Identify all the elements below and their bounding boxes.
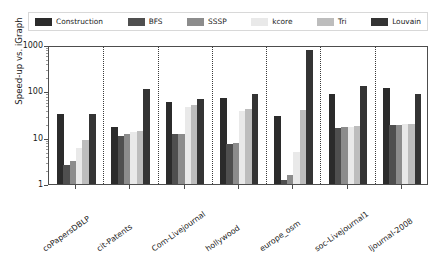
bar	[360, 86, 367, 184]
bar	[89, 114, 96, 184]
bar-groups	[49, 47, 427, 184]
legend-swatch-icon	[187, 18, 204, 26]
bar	[306, 50, 313, 185]
y-axis-tick-label: 1000	[23, 42, 43, 50]
legend-swatch-icon	[35, 18, 52, 26]
bar	[415, 94, 422, 184]
x-axis-tick-mark	[401, 185, 402, 189]
bar	[252, 94, 259, 184]
bar-group	[212, 47, 266, 184]
legend-swatch-icon	[317, 18, 334, 26]
x-axis-tick-mark	[129, 185, 130, 189]
y-axis-title: Speed-up vs. iGraph	[14, 0, 24, 126]
x-axis-tick-mark	[347, 185, 348, 189]
legend-swatch-icon	[128, 18, 145, 26]
bar-group	[266, 47, 320, 184]
legend-item-kcore: kcore	[251, 18, 292, 26]
bar-group	[49, 47, 103, 184]
legend-item-bfs: BFS	[128, 18, 163, 26]
x-axis-tick-label: coPapersDBLP	[41, 214, 92, 253]
x-axis-tick-label: soc-Livejournal1	[313, 209, 370, 253]
plot-area	[48, 46, 428, 185]
legend-item-louvain: Louvain	[371, 18, 421, 26]
x-axis-tick-label: cit-Patents	[95, 222, 134, 253]
bar-group	[103, 47, 157, 184]
x-axis-tick-mark	[184, 185, 185, 189]
y-axis-tick-label: 100	[28, 88, 43, 96]
legend-item-sssp: SSSP	[187, 18, 227, 26]
legend-label: BFS	[149, 18, 163, 26]
y-axis: 1101001000	[0, 40, 48, 192]
x-axis-tick-label: ljournal-2008	[367, 216, 414, 253]
x-axis-tick-label: europe_osm	[258, 219, 302, 254]
bar-group	[320, 47, 374, 184]
legend-label: Louvain	[392, 18, 421, 26]
legend-label: SSSP	[208, 18, 227, 26]
chart-figure: ConstructionBFSSSSPkcoreTriLouvain 11010…	[0, 0, 444, 263]
legend-item-tri: Tri	[317, 18, 347, 26]
x-axis-tick-mark	[238, 185, 239, 189]
legend-item-construction: Construction	[35, 18, 103, 26]
bar-group	[158, 47, 212, 184]
legend-swatch-icon	[251, 18, 268, 26]
x-axis-tick-mark	[292, 185, 293, 189]
bar-group	[375, 47, 428, 184]
legend-swatch-icon	[371, 18, 388, 26]
chart-legend: ConstructionBFSSSSPkcoreTriLouvain	[28, 12, 428, 31]
y-axis-tick-mark	[44, 185, 48, 186]
legend-label: Tri	[338, 18, 347, 26]
x-axis-tick-mark	[75, 185, 76, 189]
legend-label: Construction	[56, 18, 103, 26]
x-axis-tick-label: Com-Livejournal	[150, 210, 207, 254]
bar	[143, 89, 150, 184]
bar	[197, 99, 204, 184]
y-axis-tick-label: 10	[33, 135, 43, 143]
legend-label: kcore	[272, 18, 292, 26]
x-axis-tick-label: hollywood	[204, 223, 242, 253]
y-axis-tick-label: 1	[38, 181, 43, 189]
bar	[274, 116, 281, 184]
